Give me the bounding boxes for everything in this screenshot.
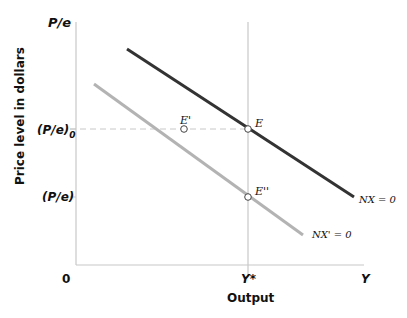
label-e: E — [254, 117, 263, 130]
tick-label-pe0-sub: 0 — [69, 130, 75, 140]
label-e-prime: E' — [179, 114, 191, 127]
y-axis-symbol: P/e — [48, 15, 71, 30]
label-nx: NX = 0 — [358, 194, 397, 205]
tick-label-pe0-main: (P/e) — [37, 123, 69, 137]
point-e-double-prime — [245, 194, 252, 201]
y-axis-title: Price level in dollars — [13, 47, 27, 185]
curve-nx — [127, 49, 354, 197]
x-axis-symbol: Y — [361, 272, 371, 286]
x-origin-label: 0 — [62, 272, 70, 286]
curve-nx-prime — [94, 84, 303, 235]
diagram-canvas: E' E E'' NX = 0 NX' = 0 P/e (P/e)0 (P/e)… — [0, 0, 407, 318]
point-e — [245, 126, 252, 133]
x-axis-title: Output — [227, 291, 275, 305]
x-tick-ystar: Y* — [241, 272, 257, 286]
label-e-double-prime: E'' — [254, 185, 269, 198]
label-nx-prime: NX' = 0 — [311, 229, 352, 240]
tick-label-pe0: (P/e)0 — [37, 123, 76, 140]
tick-label-pe: (P/e) — [42, 190, 74, 204]
